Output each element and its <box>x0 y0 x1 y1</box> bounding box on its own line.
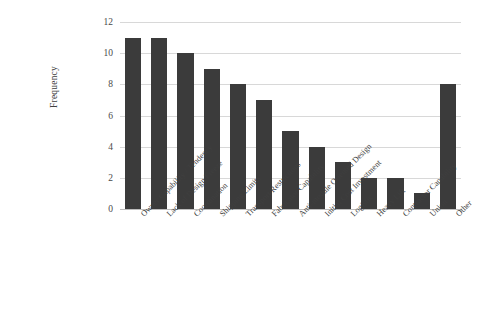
x-tick-label: Logistic <box>349 212 355 218</box>
y-tick-label: 8 <box>108 79 113 89</box>
x-tick-label: Fabricator Capability <box>270 212 276 218</box>
y-tick-label: 4 <box>108 142 113 152</box>
x-tick-label: Other <box>454 212 460 218</box>
x-tick-label: Shipping Limits <box>218 212 224 218</box>
bar-chart: Frequency 024681012 Owner Capability / T… <box>0 0 482 329</box>
y-tick-label: 2 <box>108 173 113 183</box>
bar-slot <box>230 22 246 209</box>
x-tick-label: Union <box>428 212 434 218</box>
bar-slot <box>151 22 167 209</box>
y-tick-label: 10 <box>104 48 114 58</box>
bar[interactable] <box>151 38 167 209</box>
x-tick-label: Heavy Lift <box>375 212 381 218</box>
x-tick-label: Initial Cost Investment <box>323 212 329 218</box>
x-tick-label: Transport Restrictions <box>244 212 250 218</box>
y-axis-title: Frequency <box>49 47 67 127</box>
y-tick-label: 0 <box>108 204 113 214</box>
x-tick-label: Contractor Capability <box>401 212 407 218</box>
x-axis-ticks: Owner Capability / TendencyLack of Desig… <box>120 212 461 327</box>
x-tick-label: Owner Capability / Tendency <box>139 212 145 218</box>
y-tick-label: 12 <box>104 17 114 27</box>
x-tick-label: Anti-module Oriented Design <box>297 212 303 218</box>
bar[interactable] <box>125 38 141 209</box>
bar-slot <box>414 22 430 209</box>
bar-slot <box>125 22 141 209</box>
bar[interactable] <box>440 84 456 209</box>
x-tick-label: Coordination <box>192 212 198 218</box>
x-tick-label: Lack of Design Freeze <box>165 212 171 218</box>
y-tick-label: 6 <box>108 111 113 121</box>
bar-slot <box>387 22 403 209</box>
